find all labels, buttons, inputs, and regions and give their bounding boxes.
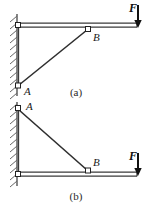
caption-b: (b) [70, 190, 83, 203]
figure-container: A B F (a) [0, 0, 153, 211]
caption-a: (a) [70, 86, 83, 99]
horizontal-beam-b [17, 172, 137, 176]
panel-a: A B F (a) [10, 1, 142, 99]
joint-label-a-lower: A [23, 85, 31, 97]
joint-label-b-upper: B [93, 31, 100, 43]
pin-joint-a-lower [16, 83, 21, 88]
pin-joint-a-upper [16, 106, 21, 111]
pin-joint-b-lower [86, 168, 91, 173]
diagonal-strut-b [19, 110, 87, 170]
pin-joint-a-wall-top [16, 23, 21, 28]
force-label-a: F [128, 1, 137, 15]
joint-label-a-upper: A [25, 100, 33, 112]
diagonal-strut-a [19, 30, 87, 85]
panel-b: A B F (b) [10, 100, 142, 203]
force-label-b: F [128, 149, 137, 163]
joint-label-b-lower: B [93, 156, 100, 168]
pin-joint-b-upper [86, 27, 91, 32]
pin-joint-b-wall-bottom [16, 172, 21, 177]
horizontal-beam-a [17, 23, 137, 27]
engineering-diagram: A B F (a) [0, 0, 153, 211]
